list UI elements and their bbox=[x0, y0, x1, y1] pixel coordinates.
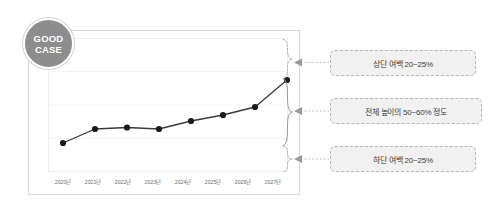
x-tick-2021: 2021년 bbox=[78, 178, 108, 186]
x-tick-2023: 2023년 bbox=[138, 178, 168, 186]
badge-line-1: GOOD bbox=[34, 33, 64, 44]
x-tick-2020: 2020년 bbox=[48, 178, 78, 186]
data-point bbox=[188, 118, 194, 124]
good-case-badge: GOOD CASE bbox=[23, 18, 74, 69]
callout-bottom-margin-label: 하단 여백 20~25% bbox=[373, 154, 433, 165]
gridlines bbox=[48, 72, 288, 139]
data-line bbox=[63, 80, 287, 143]
data-points bbox=[60, 77, 290, 146]
data-point bbox=[60, 140, 66, 146]
callout-top-margin-label: 상단 여백 20~25% bbox=[373, 58, 433, 69]
data-point bbox=[92, 126, 98, 132]
data-point bbox=[220, 112, 226, 118]
x-axis-labels: 2020년 2021년 2022년 2023년 2024년 2025년 2026… bbox=[48, 176, 288, 188]
data-point bbox=[284, 77, 290, 83]
callout-top-margin: 상단 여백 20~25% bbox=[330, 50, 476, 76]
x-tick-2022: 2022년 bbox=[108, 178, 138, 186]
x-tick-2024: 2024년 bbox=[168, 178, 198, 186]
badge-line-2: CASE bbox=[35, 44, 62, 55]
line-chart-svg bbox=[48, 38, 288, 172]
data-point bbox=[156, 126, 162, 132]
callout-chart-height-label: 전체 높이의 50~60% 정도 bbox=[365, 106, 447, 117]
callout-bottom-margin: 하단 여백 20~25% bbox=[330, 146, 476, 172]
x-tick-2025: 2025년 bbox=[198, 178, 228, 186]
data-point bbox=[124, 124, 130, 130]
data-point bbox=[252, 104, 258, 110]
callout-chart-height: 전체 높이의 50~60% 정도 bbox=[330, 98, 482, 124]
screenshot-root: 2020년 2021년 2022년 2023년 2024년 2025년 2026… bbox=[0, 0, 488, 210]
x-tick-2026: 2026년 bbox=[228, 178, 258, 186]
x-tick-2027: 2027년 bbox=[258, 178, 288, 186]
